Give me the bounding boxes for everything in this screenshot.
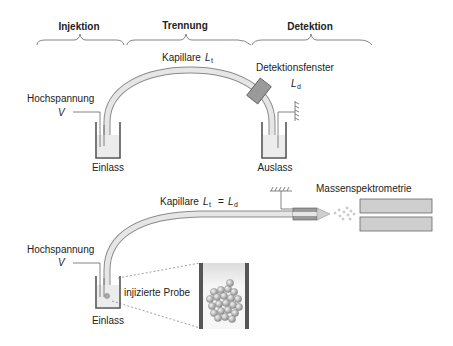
mass-spec-label: Massenspektrometrie xyxy=(316,183,412,194)
bottom-high-voltage-label: Hochspannung xyxy=(27,244,94,255)
brace-detection xyxy=(252,34,372,45)
bottom-capillary-label: Kapillare xyxy=(160,196,199,207)
top-ground-icon xyxy=(295,101,299,121)
esi-emitter xyxy=(293,208,330,220)
detection-length-subscript: d xyxy=(297,83,301,90)
detection-length-symbol: L xyxy=(291,78,297,89)
top-capillary-subscript: t xyxy=(211,57,213,64)
bottom-inlet-label: Einlass xyxy=(92,315,124,326)
section-header-injection: Injektion xyxy=(58,21,99,32)
injected-sample-label: injizierte Probe xyxy=(124,287,191,298)
sample-plug xyxy=(105,294,110,299)
mass-spec-plate-top xyxy=(360,199,432,213)
electrospray-plume xyxy=(334,207,355,220)
top-outlet-vial xyxy=(262,112,295,158)
bottom-capillary-symbol-right: L xyxy=(228,196,234,207)
bottom-equals: = xyxy=(218,196,224,207)
bottom-capillary-subscript-left: t xyxy=(209,201,211,208)
top-inlet-label: Einlass xyxy=(92,162,124,173)
section-braces xyxy=(37,34,372,45)
top-outlet-label: Auslass xyxy=(257,162,292,173)
bottom-capillary-symbol-left: L xyxy=(203,196,209,207)
section-header-separation: Trennung xyxy=(162,20,208,31)
mass-spec-plate-bottom xyxy=(360,217,432,231)
magnified-capillary xyxy=(199,263,249,329)
capillary-electrophoresis-diagram: Injektion Trennung Detektion Kapillare L… xyxy=(0,0,453,346)
brace-separation xyxy=(127,34,251,45)
top-capillary xyxy=(107,70,272,150)
top-voltage-symbol: V xyxy=(58,107,66,118)
bottom-ground-icon xyxy=(270,187,293,209)
bottom-capillary-subscript-right: d xyxy=(234,201,238,208)
detection-window-label: Detektionsfenster xyxy=(256,62,334,73)
top-high-voltage-label: Hochspannung xyxy=(27,93,94,104)
top-capillary-symbol: L xyxy=(205,52,211,63)
bottom-voltage-symbol: V xyxy=(58,257,66,268)
top-capillary-label: Kapillare xyxy=(162,52,201,63)
section-header-detection: Detektion xyxy=(287,21,333,32)
brace-injection xyxy=(37,34,124,45)
